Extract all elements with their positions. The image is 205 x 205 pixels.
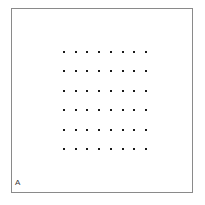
data-point	[75, 70, 77, 72]
data-point	[133, 70, 135, 72]
data-point	[145, 148, 147, 150]
data-point	[98, 51, 100, 53]
dot-grid-scatter-plot	[58, 42, 152, 159]
data-point	[122, 129, 124, 131]
data-point	[86, 129, 88, 131]
data-point	[75, 109, 77, 111]
data-point	[63, 51, 65, 53]
data-point	[122, 70, 124, 72]
panel-frame: A	[11, 8, 193, 193]
data-point	[98, 109, 100, 111]
data-point	[63, 109, 65, 111]
data-point	[122, 109, 124, 111]
data-point	[145, 129, 147, 131]
data-point	[86, 51, 88, 53]
data-point	[75, 51, 77, 53]
data-point	[75, 129, 77, 131]
figure-canvas: A	[0, 0, 205, 205]
data-point	[110, 148, 112, 150]
data-point	[63, 148, 65, 150]
data-point	[63, 70, 65, 72]
data-point	[133, 90, 135, 92]
data-point	[110, 70, 112, 72]
data-point	[98, 129, 100, 131]
data-point	[86, 70, 88, 72]
data-point	[145, 51, 147, 53]
data-point	[133, 109, 135, 111]
data-point	[98, 148, 100, 150]
data-point	[133, 51, 135, 53]
panel-label-a: A	[15, 179, 20, 187]
data-point	[110, 90, 112, 92]
data-point	[110, 129, 112, 131]
data-point	[98, 90, 100, 92]
data-point	[110, 51, 112, 53]
data-point	[75, 148, 77, 150]
data-point	[98, 70, 100, 72]
data-point	[133, 148, 135, 150]
data-point	[63, 129, 65, 131]
data-point	[145, 90, 147, 92]
data-point	[133, 129, 135, 131]
data-point	[110, 109, 112, 111]
data-point	[122, 148, 124, 150]
data-point	[122, 51, 124, 53]
data-point	[75, 90, 77, 92]
data-point	[145, 109, 147, 111]
data-point	[86, 148, 88, 150]
data-point	[86, 109, 88, 111]
data-point	[145, 70, 147, 72]
data-point	[122, 90, 124, 92]
data-point	[63, 90, 65, 92]
data-point	[86, 90, 88, 92]
